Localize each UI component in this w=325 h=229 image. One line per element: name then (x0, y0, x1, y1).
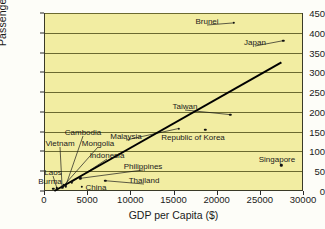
x-tick-label: 30000 (290, 194, 316, 205)
point-label: Vietnam (45, 139, 74, 148)
y-tick-mark (40, 92, 44, 93)
gridline (45, 151, 302, 152)
x-tick-mark (174, 191, 175, 195)
x-tick-label: 0 (41, 194, 46, 205)
point-label: Brunei (195, 17, 218, 26)
y-axis-title: Passenger Vehicles per Thousand (0, 0, 8, 46)
y-tick-label: 50 (285, 166, 325, 177)
gridline (45, 33, 302, 34)
gridline (45, 92, 302, 93)
x-tick-mark (87, 191, 88, 195)
y-tick-mark (40, 52, 44, 53)
y-tick-label: 150 (285, 126, 325, 137)
y-tick-label: 350 (285, 47, 325, 58)
point-label: Burma (38, 177, 62, 186)
x-tick-label: 10000 (117, 194, 143, 205)
gridline (45, 171, 302, 172)
x-tick-label: 15000 (160, 194, 186, 205)
x-tick-mark (130, 191, 131, 195)
y-tick-label: 400 (285, 27, 325, 38)
point-label: Philippines (124, 162, 163, 171)
y-tick-mark (40, 13, 44, 14)
y-tick-mark (40, 131, 44, 132)
point-label: Thailand (129, 176, 160, 185)
x-tick-label: 5000 (77, 194, 98, 205)
point-label: Republic of Korea (161, 133, 225, 142)
y-tick-label: 300 (285, 67, 325, 78)
x-tick-mark (260, 191, 261, 195)
x-tick-mark (44, 191, 45, 195)
scatter-chart: Passenger Vehicles per Thousand 05010015… (0, 0, 325, 229)
point-label: China (86, 183, 107, 192)
point-label: Singapore (259, 155, 295, 164)
y-tick-mark (40, 151, 44, 152)
x-tick-label: 25000 (247, 194, 273, 205)
point-label: Malaysia (110, 132, 142, 141)
x-tick-mark (303, 191, 304, 195)
y-tick-mark (40, 72, 44, 73)
point-label: Japan (244, 38, 266, 47)
x-tick-mark (217, 191, 218, 195)
point-label: Taiwan (173, 102, 198, 111)
x-axis-title: GDP per Capita ($) (44, 209, 303, 221)
y-tick-label: 450 (285, 8, 325, 19)
gridline (45, 13, 302, 14)
point-label: Cambodia (65, 128, 101, 137)
gridline (45, 53, 302, 54)
gridline (45, 72, 302, 73)
y-tick-mark (40, 32, 44, 33)
y-tick-label: 200 (285, 106, 325, 117)
x-tick-label: 20000 (203, 194, 229, 205)
point-label: Laos (44, 168, 61, 177)
point-label: Indonesia (90, 151, 125, 160)
gridline (45, 112, 302, 113)
y-tick-label: 250 (285, 87, 325, 98)
y-tick-mark (40, 111, 44, 112)
